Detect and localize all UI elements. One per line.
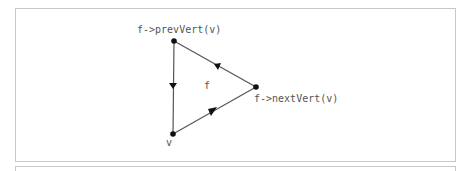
vertex-v: [170, 131, 176, 137]
arrow-up-right-icon: [208, 107, 217, 116]
label-prev-vert: f->prevVert(v): [137, 24, 221, 35]
edges: [173, 41, 256, 134]
arrowheads: [169, 63, 221, 116]
vertices: [170, 38, 259, 137]
face-diagram: f->prevVert(v) f->nextVert(v) v f: [0, 0, 472, 171]
vertex-next: [253, 84, 259, 90]
label-next-vert: f->nextVert(v): [254, 93, 338, 104]
label-face: f: [204, 80, 210, 91]
vertex-prev: [171, 38, 177, 44]
label-v: v: [166, 137, 172, 148]
arrow-down-icon: [169, 83, 177, 89]
